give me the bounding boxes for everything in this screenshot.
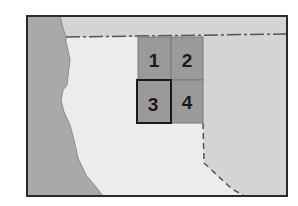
index-map: 1 2 3 4: [0, 0, 298, 206]
grid: 1 2 3 4: [137, 37, 203, 123]
grid-cell-4-label: 4: [182, 92, 193, 113]
grid-cell-3-label: 3: [148, 94, 159, 115]
grid-cell-2-label: 2: [182, 50, 193, 71]
grid-cell-1-label: 1: [149, 50, 160, 71]
